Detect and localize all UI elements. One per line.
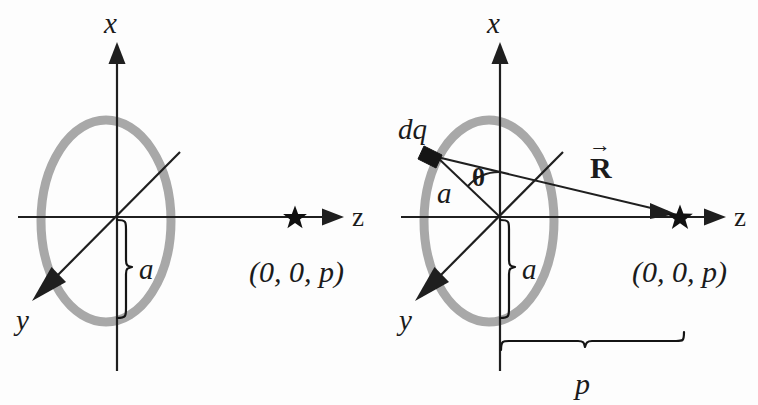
figure-canvas: z x y a (0, 0, p) z [0,0,758,405]
radius-brace [500,220,515,318]
left-panel: z x y a (0, 0, p) [13,7,364,371]
axial-distance-brace [501,332,684,350]
radius-label: a [522,253,537,285]
distance-vector-label: R [590,151,612,184]
radius-brace [117,220,132,318]
field-point-star-marker [283,206,307,229]
field-point-label: (0, 0, p) [632,255,727,289]
field-point-star-marker [667,205,693,229]
slant-radius-label: a [437,177,452,209]
axial-distance-label: p [573,367,590,400]
radius-label: a [139,253,154,285]
z-axis-label: z [734,202,746,232]
right-panel: z x y dq θ a → R [396,7,746,400]
x-axis-label: x [486,7,500,39]
z-axis-label: z [352,202,364,232]
physics-figure: z x y a (0, 0, p) z [0,0,758,405]
x-axis-arrowhead [492,42,509,64]
charge-ring [41,120,171,322]
angle-label: θ [472,164,485,191]
z-axis-arrowhead [322,209,344,226]
field-point-label: (0, 0, p) [249,255,344,289]
y-axis-label: y [396,304,412,336]
z-axis-arrowhead [704,209,726,226]
charge-element-label: dq [398,113,427,145]
charge-ring [424,120,554,322]
x-axis-arrowhead [109,42,126,64]
y-axis-label: y [13,304,29,336]
x-axis-label: x [103,7,117,39]
